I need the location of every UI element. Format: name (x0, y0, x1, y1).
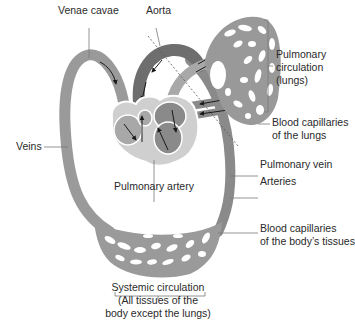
label-pulmonary-circulation-2: circulation (276, 61, 323, 74)
label-aorta: Aorta (146, 4, 171, 17)
label-blood-capillaries-lungs-1: Blood capillaries (272, 116, 348, 129)
label-venae-cavae: Venae cavae (58, 4, 119, 17)
label-arteries: Arteries (260, 175, 296, 188)
label-blood-capillaries-lungs-2: of the lungs (272, 129, 326, 142)
veins-vessel (65, 55, 125, 232)
systemic-capillaries (94, 222, 222, 278)
label-veins: Veins (16, 140, 42, 153)
label-pulmonary-artery: Pulmonary artery (114, 180, 194, 193)
label-systemic-circulation-1: Systemic circulation (98, 281, 218, 294)
label-pulmonary-vein: Pulmonary vein (260, 158, 332, 171)
label-blood-capillaries-body-2: of the body’s tissues (260, 235, 355, 248)
heart (112, 96, 198, 166)
label-pulmonary-circulation-3: (lungs) (276, 74, 308, 87)
label-blood-capillaries-body-1: Blood capillaries (260, 222, 336, 235)
label-systemic-circulation-2: (All tissues of the (98, 294, 218, 307)
label-systemic-circulation-3: body except the lungs) (92, 307, 224, 320)
label-pulmonary-circulation-1: Pulmonary (276, 48, 326, 61)
